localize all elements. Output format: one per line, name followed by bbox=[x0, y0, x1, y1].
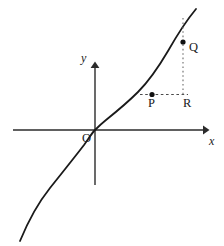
point-marker-Q bbox=[180, 39, 185, 44]
figure-canvas: y x O P Q R bbox=[0, 0, 224, 246]
plot-svg bbox=[0, 0, 224, 246]
point-label-Q: Q bbox=[189, 41, 198, 54]
origin-label: O bbox=[82, 132, 91, 145]
function-curve bbox=[20, 9, 196, 241]
y-axis-label: y bbox=[81, 52, 86, 64]
point-label-R: R bbox=[183, 97, 191, 110]
y-axis-arrowhead bbox=[91, 62, 100, 69]
point-label-P: P bbox=[148, 97, 155, 110]
x-axis-label: x bbox=[209, 135, 214, 147]
